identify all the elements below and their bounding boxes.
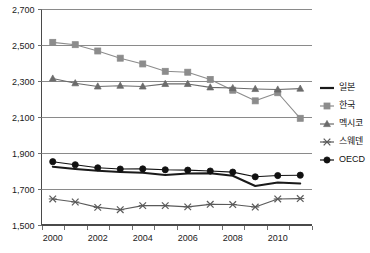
legend-item-스웨덴[interactable]: 스웨덴 <box>320 135 363 146</box>
y-axis-tick-label: 1,900 <box>12 149 35 159</box>
data-point <box>95 165 101 171</box>
legend-swatch-marker <box>323 139 331 146</box>
data-point <box>251 204 259 211</box>
gridlines-group <box>42 10 312 226</box>
legend-label: 스웨덴 <box>339 135 363 146</box>
legend-label: 멕시코 <box>339 118 363 128</box>
data-point <box>50 159 56 165</box>
data-point <box>161 202 169 209</box>
legend-label: 한국 <box>339 100 355 110</box>
data-point <box>50 39 56 45</box>
legend-swatch-marker <box>324 103 330 109</box>
y-axis-tick-label: 1,500 <box>12 221 35 231</box>
data-point <box>49 196 57 203</box>
data-point <box>207 168 213 174</box>
series-group <box>49 39 305 213</box>
data-point <box>296 195 304 202</box>
data-point <box>49 75 56 81</box>
x-axis-tick-label: 2004 <box>133 233 153 243</box>
series-line <box>53 79 301 90</box>
x-axis-tick-label: 2002 <box>88 233 108 243</box>
y-axis-tick-label: 2,500 <box>12 41 35 51</box>
data-point <box>94 204 102 211</box>
data-point <box>72 42 78 48</box>
data-point <box>117 82 124 88</box>
data-point <box>297 115 303 121</box>
series-한국 <box>50 39 304 121</box>
data-point <box>95 48 101 54</box>
data-point <box>140 166 146 172</box>
data-point <box>117 166 123 172</box>
data-point <box>229 201 237 208</box>
series-line <box>53 199 301 210</box>
data-point <box>252 174 258 180</box>
data-point <box>206 201 214 208</box>
y-axis-tick-label: 2,100 <box>12 113 35 123</box>
data-point <box>139 202 147 209</box>
y-axis-tick-label: 1,700 <box>12 185 35 195</box>
data-point <box>140 61 146 67</box>
legend-label: 일본 <box>339 82 355 92</box>
data-point <box>297 172 303 178</box>
data-point <box>252 98 258 104</box>
data-point <box>184 204 192 211</box>
series-line <box>53 42 301 118</box>
legend-item-OECD[interactable]: OECD <box>320 154 366 164</box>
data-point <box>162 68 168 74</box>
data-point <box>72 162 78 168</box>
legend-swatch-marker <box>324 157 330 163</box>
data-point <box>185 167 191 173</box>
x-axis-tick-label: 2000 <box>43 233 63 243</box>
x-axis-tick-label: 2006 <box>178 233 198 243</box>
data-point <box>275 172 281 178</box>
y-axis-tick-label: 2,700 <box>12 5 35 15</box>
data-point <box>274 196 282 203</box>
x-axis-tickmarks <box>43 226 313 230</box>
legend-item-일본[interactable]: 일본 <box>320 82 355 92</box>
series-멕시코 <box>49 75 303 92</box>
legend-item-한국[interactable]: 한국 <box>320 100 355 110</box>
x-axis-tick-label: 2010 <box>268 233 288 243</box>
x-axis-tick-label: 2008 <box>223 233 243 243</box>
data-point <box>117 55 123 61</box>
data-point <box>297 85 304 91</box>
data-point <box>71 199 79 206</box>
y-axis-tick-label: 2,300 <box>12 77 35 87</box>
legend-item-멕시코[interactable]: 멕시코 <box>320 118 363 128</box>
data-point <box>162 167 168 173</box>
y-axis-tick-labels: 1,5001,7001,9002,1002,3002,5002,700 <box>12 5 42 231</box>
data-point <box>116 206 124 213</box>
legend-label: OECD <box>339 154 366 164</box>
data-point <box>207 76 213 82</box>
chart-legend: 일본한국멕시코스웨덴OECD <box>320 82 366 164</box>
data-point <box>185 69 191 75</box>
chart-canvas: 1,5001,7001,9002,1002,3002,5002,700 2000… <box>0 0 370 253</box>
line-chart: 1,5001,7001,9002,1002,3002,5002,700 2000… <box>0 0 370 253</box>
series-스웨덴 <box>49 195 305 213</box>
data-point <box>230 169 236 175</box>
x-axis-tick-labels: 200020022004200620082010 <box>43 233 288 243</box>
